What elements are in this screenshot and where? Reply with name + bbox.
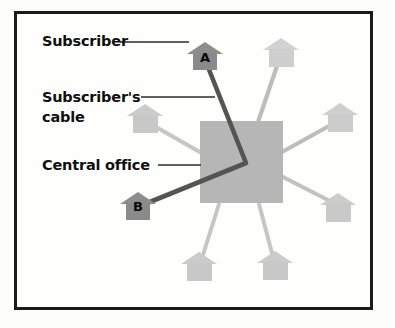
cable-right-upper — [282, 126, 329, 152]
cable-right-lower — [281, 176, 328, 200]
cable-bottom-right — [259, 204, 273, 257]
house-top-right — [263, 38, 299, 67]
house-bottom-right — [257, 251, 293, 280]
label-subscriber-cable-line1: Subscriber's — [42, 88, 141, 108]
cable-bottom-left — [202, 204, 219, 258]
cable-left — [156, 127, 205, 155]
label-subscriber: Subscriber — [42, 32, 128, 52]
house-bottom-left — [181, 252, 217, 281]
diagram-figure: Subscriber Subscriber's cable Central of… — [0, 0, 395, 328]
cable-top-right — [258, 66, 277, 122]
node-label-a: A — [194, 50, 216, 65]
label-subscriber-cable-line2: cable — [42, 108, 141, 128]
label-central-office: Central office — [42, 156, 150, 176]
label-subscriber-cable: Subscriber's cable — [42, 88, 141, 127]
central-office-block — [200, 121, 283, 203]
node-label-b: B — [127, 199, 149, 214]
